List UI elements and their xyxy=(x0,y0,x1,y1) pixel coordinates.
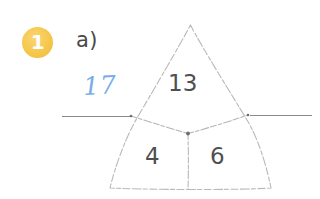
number-triangle-diagram xyxy=(95,14,285,199)
partition-center-node xyxy=(186,132,190,136)
triangle-cell-bottom-right: 6 xyxy=(210,143,225,169)
exercise-number-badge: 1 xyxy=(22,27,53,58)
partition-left-branch xyxy=(131,116,188,134)
triangle-outline xyxy=(110,25,271,190)
exercise-number-label: 1 xyxy=(31,32,44,52)
partition-right-branch xyxy=(188,115,248,134)
triangle-cell-bottom-left: 4 xyxy=(145,143,160,169)
worksheet-canvas: 1 a) 17 13 4 6 xyxy=(0,0,320,199)
triangle-cell-top: 13 xyxy=(168,70,197,96)
partition-left-node xyxy=(130,115,133,118)
partition-right-node xyxy=(247,114,250,117)
